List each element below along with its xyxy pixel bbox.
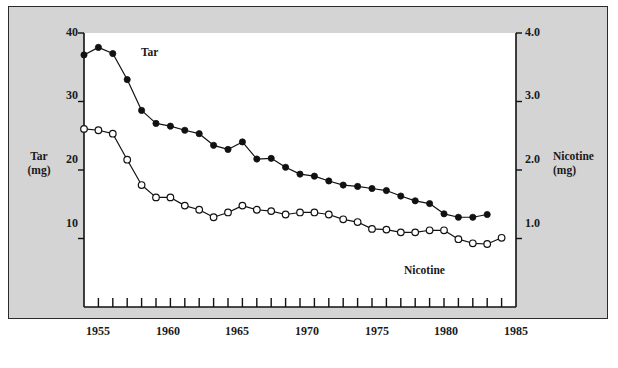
ytick-right-3-0: 3.0 — [525, 89, 555, 103]
ytick-left-30: 30 — [52, 89, 78, 103]
xtick-1960: 1960 — [148, 325, 188, 339]
y-axis-title-right-line2: (mg) — [553, 164, 609, 178]
xtick-1970: 1970 — [287, 325, 327, 339]
ytick-left-40: 40 — [52, 26, 78, 40]
ytick-right-2-0: 2.0 — [525, 153, 555, 167]
y-axis-title-left-line2: (mg) — [22, 164, 56, 178]
ytick-right-1-0: 1.0 — [525, 217, 555, 231]
xtick-1955: 1955 — [78, 325, 118, 339]
y-axis-title-left: Tar (mg) — [22, 150, 56, 178]
xtick-1965: 1965 — [217, 325, 257, 339]
xtick-1985: 1985 — [496, 325, 536, 339]
figure-panel — [8, 6, 608, 319]
y-axis-title-left-line1: Tar — [22, 150, 56, 164]
series-annotation-tar: Tar — [141, 46, 158, 58]
figure-root: 40 30 20 10 4.0 3.0 2.0 1.0 Tar (mg) Nic… — [0, 0, 618, 368]
y-axis-title-right: Nicotine (mg) — [553, 150, 609, 178]
y-axis-title-right-line1: Nicotine — [553, 150, 609, 164]
ytick-right-4-0: 4.0 — [525, 26, 555, 40]
xtick-1975: 1975 — [357, 325, 397, 339]
ytick-left-10: 10 — [52, 217, 78, 231]
xtick-1980: 1980 — [426, 325, 466, 339]
series-annotation-nicotine: Nicotine — [404, 264, 445, 276]
